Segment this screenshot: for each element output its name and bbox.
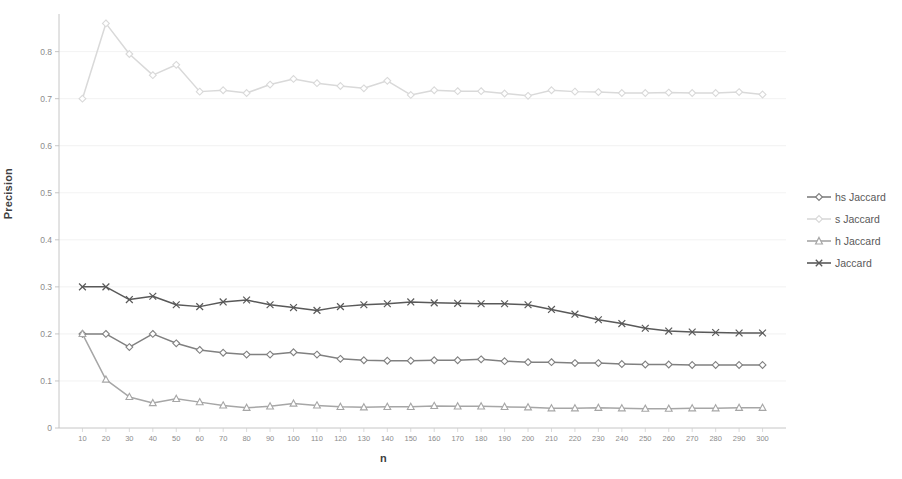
x-axis-tick-label: 260 (658, 434, 680, 443)
legend-marker-icon (806, 213, 832, 225)
data-point-marker (337, 355, 344, 362)
data-point-marker (618, 90, 625, 97)
data-point-marker (689, 90, 696, 97)
data-point-marker (173, 340, 180, 347)
x-axis-tick-label: 40 (142, 434, 164, 443)
data-point-marker (243, 351, 250, 358)
x-axis-tick-label: 300 (752, 434, 774, 443)
x-axis-tick-label: 100 (283, 434, 305, 443)
x-axis-tick-label: 120 (329, 434, 351, 443)
legend-item-label: Jaccard (835, 258, 872, 269)
data-point-marker (103, 376, 110, 382)
data-point-marker (454, 88, 461, 95)
data-point-marker (314, 80, 321, 87)
x-axis-tick-label: 280 (705, 434, 727, 443)
data-point-marker (431, 357, 438, 364)
data-point-marker (759, 91, 766, 98)
x-axis-tick-label: 80 (236, 434, 258, 443)
data-point-marker (454, 357, 461, 364)
x-axis-tick-label: 50 (165, 434, 187, 443)
data-point-marker (665, 89, 672, 96)
legend-marker-icon (806, 235, 832, 247)
data-point-marker (642, 90, 649, 97)
x-axis-tick-label: 110 (306, 434, 328, 443)
legend-item-s-jaccard[interactable]: s Jaccard (806, 208, 902, 230)
data-point-marker (220, 87, 227, 94)
precision-vs-n-line-chart: Precision n 00.10.20.30.40.50.60.70.8 10… (0, 0, 902, 479)
data-point-marker (314, 351, 321, 358)
data-point-marker (173, 395, 180, 401)
data-point-marker (501, 358, 508, 365)
y-axis-tick-label: 0.8 (18, 47, 52, 57)
data-point-marker (384, 77, 391, 84)
data-point-marker (736, 362, 743, 369)
x-axis-tick-label: 270 (681, 434, 703, 443)
data-point-marker (407, 92, 414, 99)
x-axis-tick-label: 290 (728, 434, 750, 443)
data-point-marker (712, 362, 719, 369)
y-axis-tick-label: 0.1 (18, 376, 52, 386)
data-point-marker (196, 347, 203, 354)
legend-marker-icon (806, 191, 832, 203)
data-point-marker (548, 87, 555, 94)
y-axis-tick-label: 0.2 (18, 329, 52, 339)
x-axis-tick-label: 200 (517, 434, 539, 443)
y-axis-tick-label: 0.6 (18, 141, 52, 151)
x-axis-tick-label: 90 (259, 434, 281, 443)
data-point-marker (149, 331, 156, 338)
x-axis-tick-label: 20 (95, 434, 117, 443)
data-point-marker (267, 81, 274, 88)
y-axis-tick-label: 0.4 (18, 235, 52, 245)
series-s-jaccard (79, 20, 766, 102)
x-axis-tick-label: 10 (71, 434, 93, 443)
series-hs-jaccard (79, 331, 766, 369)
x-axis-tick-label: 180 (470, 434, 492, 443)
data-point-marker (103, 331, 110, 338)
series-h-jaccard (79, 330, 766, 411)
legend-item-label: hs Jaccard (835, 192, 886, 203)
data-point-marker (525, 359, 532, 366)
data-point-marker (407, 357, 414, 364)
data-point-marker (290, 76, 297, 83)
data-point-marker (736, 89, 743, 96)
data-point-marker (618, 361, 625, 368)
legend-item-label: h Jaccard (835, 236, 881, 247)
series-line (82, 23, 762, 98)
legend-item-h-jaccard[interactable]: h Jaccard (806, 230, 902, 252)
y-axis-tick-label: 0.7 (18, 94, 52, 104)
legend-item-jaccard[interactable]: Jaccard (806, 252, 902, 274)
data-point-marker (548, 359, 555, 366)
data-point-marker (642, 361, 649, 368)
x-axis-tick-label: 60 (189, 434, 211, 443)
series-line (82, 334, 762, 365)
y-axis-tick-label: 0.5 (18, 188, 52, 198)
data-point-marker (478, 88, 485, 95)
x-axis-tick-label: 190 (494, 434, 516, 443)
data-point-marker (712, 90, 719, 97)
data-point-marker (431, 87, 438, 94)
chart-legend: hs Jaccards Jaccardh JaccardJaccard (806, 186, 902, 274)
data-point-marker (595, 360, 602, 367)
data-point-marker (79, 95, 86, 102)
legend-item-label: s Jaccard (835, 214, 880, 225)
data-point-marker (267, 351, 274, 358)
data-point-marker (689, 362, 696, 369)
x-axis-tick-label: 30 (118, 434, 140, 443)
data-point-marker (220, 349, 227, 356)
y-axis-tick-label: 0.3 (18, 282, 52, 292)
y-axis-tick-label: 0 (18, 423, 52, 433)
x-axis-tick-label: 230 (587, 434, 609, 443)
x-axis-tick-label: 130 (353, 434, 375, 443)
x-axis-tick-label: 150 (400, 434, 422, 443)
x-axis-tick-label: 140 (376, 434, 398, 443)
data-point-marker (501, 90, 508, 97)
data-point-marker (243, 90, 250, 97)
legend-marker-icon (806, 257, 832, 269)
x-axis-tick-label: 210 (540, 434, 562, 443)
x-axis-tick-label: 240 (611, 434, 633, 443)
data-point-marker (572, 88, 579, 95)
series-jaccard (79, 283, 766, 336)
legend-item-hs-jaccard[interactable]: hs Jaccard (806, 186, 902, 208)
data-point-marker (337, 83, 344, 90)
plot-area (0, 0, 902, 479)
